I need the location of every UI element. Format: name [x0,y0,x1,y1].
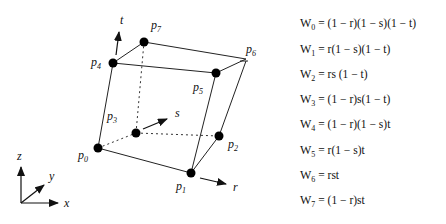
formula-w7: W7 = (1 − r)st [300,193,365,209]
vertex-p5 [212,69,221,78]
z-axis-label: z [16,149,22,163]
t-axis-label: t [120,13,124,27]
s-axis-label: s [175,106,180,120]
formula-w4: W4 = (1 − r)(1 − s)t [300,117,390,133]
label-p0: p0 [77,148,88,164]
t-axis-arrow [116,32,119,55]
vertex-p3 [132,129,141,138]
formula-w1: W1 = r(1 − s)(1 − t) [300,42,390,58]
solid-edges [98,42,248,173]
formula-w2: W2 = rs (1 − t) [300,67,368,83]
parametric-axes [116,32,226,184]
hexahedron-diagram: p0 p1 p2 p3 p4 p5 p6 p7 t s r z y x [0,0,290,224]
y-axis-arrow [21,185,44,203]
label-p6: p6 [245,42,256,58]
label-p2: p2 [227,137,238,153]
label-p5: p5 [192,80,203,96]
formula-w0: W0 = (1 − r)(1 − s)(1 − t) [300,16,416,32]
label-p4: p4 [90,55,101,71]
x-axis-label: x [63,196,70,210]
label-p1: p1 [175,179,186,195]
vertex-p0 [94,144,103,153]
y-axis-label: y [48,169,55,183]
formula-w6: W6 = rst [300,168,339,184]
label-p7: p7 [150,18,162,34]
formula-w3: W3 = (1 − r)s(1 − t) [300,92,390,108]
r-axis-label: r [233,180,238,194]
vertex-p4 [109,59,118,68]
r-axis-arrow [200,178,226,184]
weight-formulas: W0 = (1 − r)(1 − s)(1 − t) W1 = r(1 − s)… [300,0,446,224]
vertex-p2 [215,132,224,141]
formula-w5: W5 = r(1 − s)t [300,143,365,159]
vertex-p1 [187,169,196,178]
label-p3: p3 [106,109,117,125]
s-axis-arrow [143,119,167,129]
vertex-p7 [140,38,149,47]
